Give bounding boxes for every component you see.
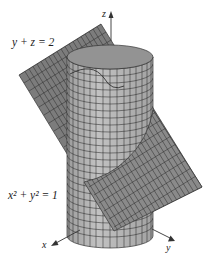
x-axis-label: x	[42, 239, 46, 250]
z-axis-label: z	[102, 8, 106, 19]
y-axis-label: y	[166, 242, 170, 253]
cylinder-equation-label: x² + y² = 1	[8, 189, 58, 201]
y-axis	[152, 229, 175, 242]
plane-equation-label: y + z = 2	[12, 36, 54, 48]
